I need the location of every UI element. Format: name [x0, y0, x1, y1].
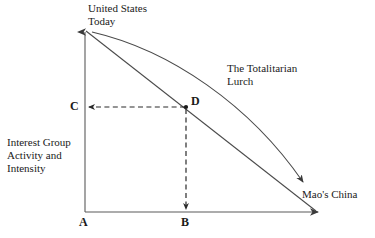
- label-point-b: B: [181, 215, 189, 229]
- label-point-c: C: [70, 99, 79, 113]
- linear-tradeoff-line: [86, 31, 316, 211]
- label-y-axis-interest-group: Interest Group Activity and Intensity: [7, 136, 71, 175]
- label-point-a: A: [79, 215, 88, 229]
- label-point-d: D: [191, 94, 200, 108]
- diagram-canvas: [0, 0, 375, 238]
- label-maos-china: Mao's China: [302, 188, 357, 201]
- label-totalitarian-lurch: The Totalitarian Lurch: [227, 62, 297, 88]
- label-united-states-today: United States Today: [88, 2, 147, 28]
- point-d-marker: [184, 105, 188, 109]
